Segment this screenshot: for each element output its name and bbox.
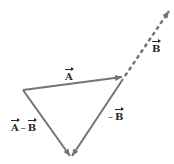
vector-symbol-b: B	[152, 44, 160, 54]
label-vector-neg-b: –B	[106, 112, 123, 122]
vector-symbol-b: B	[28, 123, 36, 133]
label-vector-a: A	[65, 72, 73, 82]
minus-sign: –	[108, 111, 113, 122]
label-vector-b: B	[152, 44, 160, 54]
minus-sign: –	[21, 122, 26, 133]
vector-diagram-svg	[0, 0, 174, 164]
vector-symbol-a: A	[11, 123, 19, 133]
vector-symbol-a: A	[65, 72, 73, 82]
vector-symbol-b: B	[115, 112, 123, 122]
label-vector-a-minus-b: A–B	[11, 123, 36, 133]
vector-b-dashed-arrow	[125, 11, 169, 76]
vector-diagram: A B –B A–B	[0, 0, 174, 164]
